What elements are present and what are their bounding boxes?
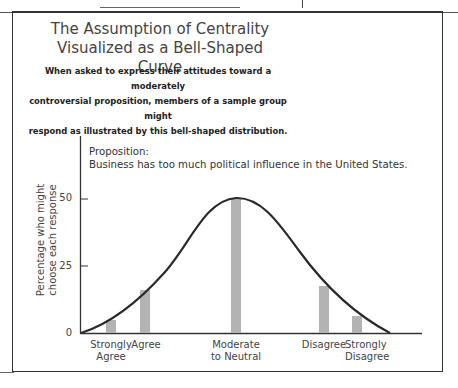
chart-plot bbox=[0, 0, 458, 388]
x-label-line: Disagree bbox=[301, 339, 347, 351]
x-label-moderate: Moderate to Neutral bbox=[206, 339, 266, 363]
x-label-line: Moderate bbox=[206, 339, 266, 351]
x-label-line: Strongly bbox=[345, 339, 395, 351]
x-label-line: Agree bbox=[88, 351, 134, 363]
x-label-strongly-disagree: Strongly Disagree bbox=[345, 339, 395, 363]
x-label-line: to Neutral bbox=[206, 351, 266, 363]
bar-strongly-disagree bbox=[352, 316, 362, 333]
x-label-line: Agree bbox=[128, 339, 164, 351]
x-label-line: Disagree bbox=[345, 351, 395, 363]
bar-moderate bbox=[231, 199, 241, 333]
x-label-agree: Agree bbox=[128, 339, 164, 351]
x-label-disagree: Disagree bbox=[301, 339, 347, 351]
bar-disagree bbox=[319, 286, 329, 333]
